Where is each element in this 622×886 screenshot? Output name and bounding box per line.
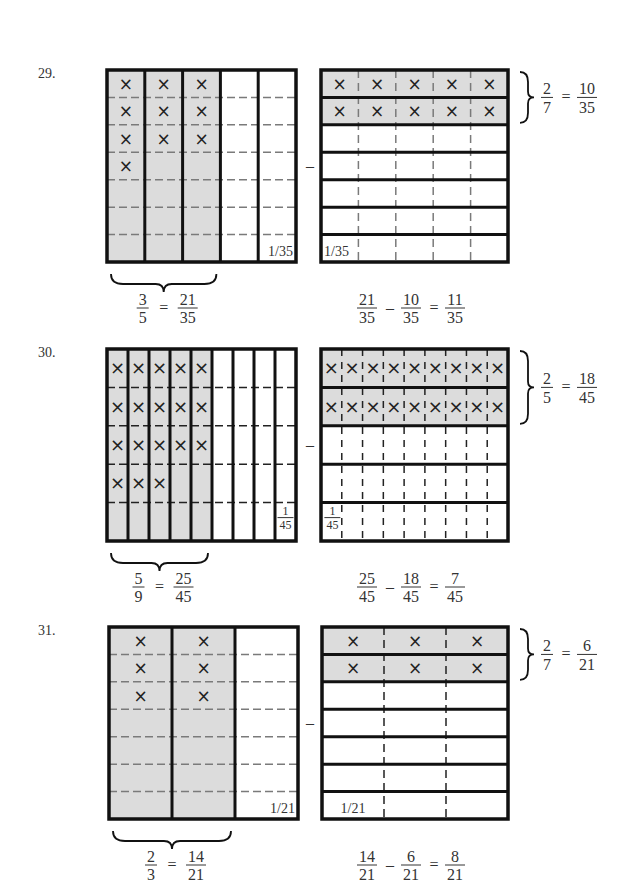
numerator: 3 xyxy=(139,291,147,308)
numerator: 8 xyxy=(451,848,459,865)
x-mark: × xyxy=(324,357,339,378)
x-mark: × xyxy=(482,101,496,121)
x-mark: × xyxy=(173,396,188,417)
x-mark: × xyxy=(346,658,360,678)
fraction-b: 2545 xyxy=(174,570,194,605)
minus-sign: – xyxy=(385,578,395,595)
fraction-b: 621 xyxy=(577,637,597,672)
x-mark: × xyxy=(449,396,464,417)
left-fraction-grid: ××××××××××1/35 xyxy=(107,70,296,262)
fraction-a: 2545 xyxy=(357,570,377,605)
fraction-b: 1035 xyxy=(577,80,597,115)
equals-sign: = xyxy=(159,299,168,316)
denominator: 35 xyxy=(180,309,196,326)
x-mark: × xyxy=(333,74,347,94)
denominator: 45 xyxy=(326,518,338,532)
x-mark: × xyxy=(152,472,167,493)
unit-fraction-label: 145 xyxy=(278,504,294,532)
denominator: 9 xyxy=(135,588,143,605)
numerator: 5 xyxy=(135,570,143,587)
denominator: 35 xyxy=(447,309,463,326)
x-mark: × xyxy=(194,396,209,417)
x-mark: × xyxy=(470,631,484,651)
numerator: 6 xyxy=(583,637,591,654)
x-mark: × xyxy=(490,357,505,378)
x-mark: × xyxy=(194,74,208,94)
x-mark: × xyxy=(428,357,443,378)
x-mark: × xyxy=(157,74,171,94)
numerator: 14 xyxy=(359,848,375,865)
numerator: 2 xyxy=(543,370,551,387)
denominator: 45 xyxy=(359,588,375,605)
x-mark: × xyxy=(152,434,167,455)
x-mark: × xyxy=(345,396,360,417)
denominator: 35 xyxy=(403,309,419,326)
right-brace-equation: 27=621 xyxy=(541,637,597,672)
problem-31: 31.××××××1/2123=1421–××××××1/2127=621142… xyxy=(38,623,597,883)
x-mark: × xyxy=(469,396,484,417)
equals-sign: = xyxy=(429,299,438,316)
result-equation: 1421–621=821 xyxy=(357,848,465,883)
x-mark: × xyxy=(196,631,210,651)
denominator: 21 xyxy=(359,866,375,883)
equals-sign: = xyxy=(561,645,570,662)
curly-brace-bottom xyxy=(111,274,216,292)
x-mark: × xyxy=(119,129,133,149)
unit-fraction-label: 1/35 xyxy=(324,244,349,259)
unit-fraction-label: 145 xyxy=(324,504,340,532)
x-mark: × xyxy=(152,396,167,417)
x-mark: × xyxy=(173,434,188,455)
x-mark: × xyxy=(194,434,209,455)
numerator: 14 xyxy=(188,848,204,865)
fraction-a: 2135 xyxy=(357,291,377,326)
x-mark: × xyxy=(407,101,421,121)
numerator: 25 xyxy=(359,570,375,587)
numerator: 10 xyxy=(403,291,419,308)
x-mark: × xyxy=(449,357,464,378)
x-mark: × xyxy=(408,631,422,651)
numerator: 11 xyxy=(447,291,462,308)
x-mark: × xyxy=(173,357,188,378)
x-mark: × xyxy=(194,357,209,378)
fraction-a: 1421 xyxy=(357,848,377,883)
denominator: 7 xyxy=(543,99,551,116)
fraction-a: 59 xyxy=(133,570,145,605)
x-mark: × xyxy=(196,686,210,706)
x-mark: × xyxy=(490,396,505,417)
minus-sign: – xyxy=(385,856,395,873)
right-fraction-grid: ××××××××××××××××××145 xyxy=(321,349,508,541)
fraction-a: 35 xyxy=(137,291,149,326)
numerator: 6 xyxy=(407,848,415,865)
equals-sign: = xyxy=(155,578,164,595)
x-mark: × xyxy=(110,357,125,378)
numerator: 1 xyxy=(283,504,289,518)
problem-number: 29. xyxy=(38,66,56,81)
fraction-result: 1135 xyxy=(445,291,465,326)
x-mark: × xyxy=(408,658,422,678)
denominator: 7 xyxy=(543,656,551,673)
equals-sign: = xyxy=(167,856,176,873)
numerator: 2 xyxy=(147,848,155,865)
minus-sign: – xyxy=(385,299,395,316)
fraction-b: 621 xyxy=(401,848,421,883)
x-mark: × xyxy=(194,101,208,121)
problem-30: 30.××××××××××××××××××14559=2545–××××××××… xyxy=(38,345,597,605)
denominator: 21 xyxy=(579,656,595,673)
fraction-b: 1845 xyxy=(577,370,597,405)
fraction-a: 27 xyxy=(541,637,553,672)
numerator: 7 xyxy=(451,570,459,587)
denominator: 45 xyxy=(280,518,292,532)
x-mark: × xyxy=(333,101,347,121)
x-mark: × xyxy=(194,129,208,149)
x-mark: × xyxy=(110,434,125,455)
x-mark: × xyxy=(365,357,380,378)
right-brace-equation: 25=1845 xyxy=(541,370,597,405)
fraction-b: 1035 xyxy=(401,291,421,326)
curly-brace-bottom xyxy=(113,831,231,849)
fraction-b: 2135 xyxy=(178,291,198,326)
unit-fraction-label: 1/21 xyxy=(270,801,295,816)
unit-fraction-label: 1/35 xyxy=(268,244,293,259)
x-mark: × xyxy=(119,156,133,176)
denominator: 45 xyxy=(447,588,463,605)
x-mark: × xyxy=(386,357,401,378)
